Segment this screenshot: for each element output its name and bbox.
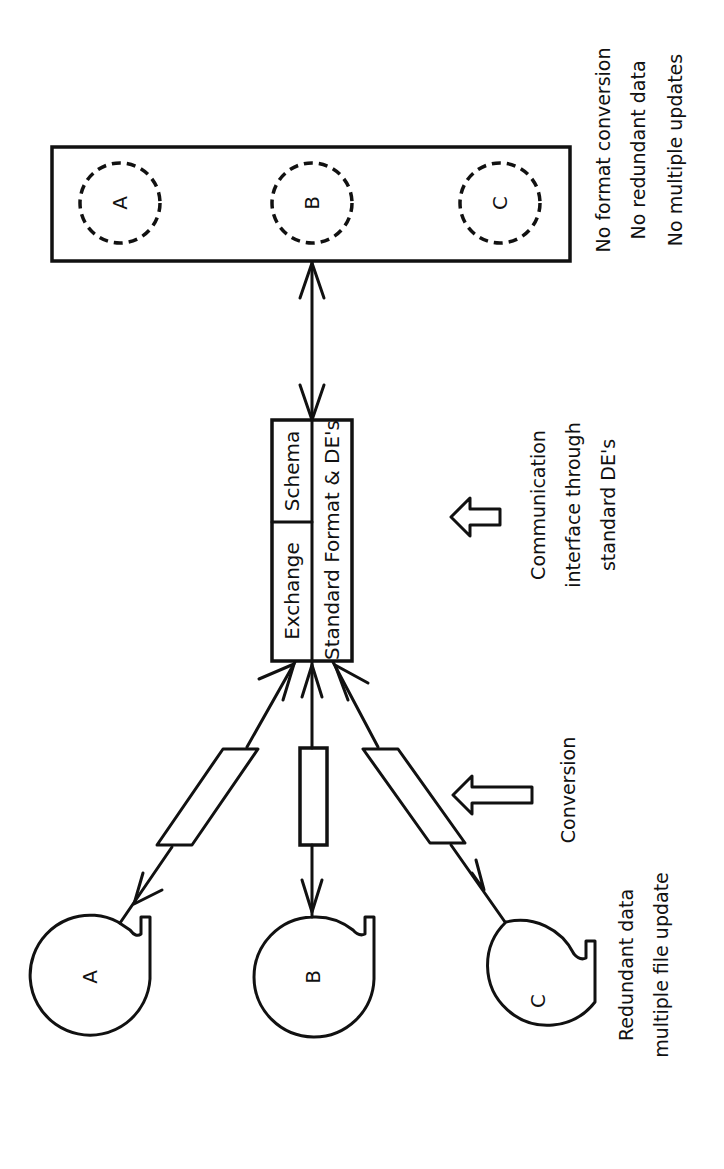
conversion-label: Conversion xyxy=(557,737,579,844)
exchange-schema-diagram: A B C No format conversion No redundant … xyxy=(0,0,724,1169)
tape-a: A xyxy=(30,915,150,1035)
bidirectional-arrow xyxy=(300,262,324,420)
tape-c-label: C xyxy=(526,994,550,1008)
conversion-link-c xyxy=(333,662,505,922)
schema-label: Schema xyxy=(280,431,304,511)
dashed-file-a-label: A xyxy=(108,196,132,210)
exchange-schema-box: Schema Exchange Standard Format & DE's xyxy=(272,420,352,661)
communication-caption-line2: interface through xyxy=(562,422,584,587)
conversion-link-a xyxy=(120,662,295,923)
standard-format-label: Standard Format & DE's xyxy=(320,420,344,660)
note-no-format-conversion: No format conversion xyxy=(592,47,614,252)
dashed-file-c-label: C xyxy=(488,196,512,210)
tape-a-label: A xyxy=(78,970,102,984)
dashed-file-b: B xyxy=(272,163,352,243)
communication-caption-line1: Communication xyxy=(527,430,549,580)
tape-c: C xyxy=(488,920,595,1025)
multiple-file-update-caption: multiple file update xyxy=(650,872,672,1058)
converter-a xyxy=(157,749,258,845)
tape-b-label: B xyxy=(301,970,325,984)
conversion-link-b xyxy=(300,662,327,917)
communication-caption: Communication interface through standard… xyxy=(451,422,619,587)
dashed-file-c: C xyxy=(460,163,540,243)
dashed-file-a: A xyxy=(80,163,160,243)
converter-b xyxy=(300,748,327,845)
hollow-arrow-up-icon xyxy=(451,498,500,536)
note-no-multiple-updates: No multiple updates xyxy=(664,54,686,246)
conversion-caption: Conversion xyxy=(453,737,579,844)
communication-caption-line3: standard DE's xyxy=(597,439,619,571)
redundant-data-caption: Redundant data xyxy=(615,889,637,1041)
left-system-caption: Redundant data multiple file update xyxy=(615,872,672,1058)
integrated-database-box: A B C xyxy=(52,147,570,261)
hollow-arrow-up-icon xyxy=(453,776,532,814)
converter-c xyxy=(363,749,465,843)
exchange-label: Exchange xyxy=(280,542,304,640)
right-system-notes: No format conversion No redundant data N… xyxy=(592,47,686,252)
dashed-file-b-label: B xyxy=(300,196,324,210)
note-no-redundant-data: No redundant data xyxy=(627,60,649,239)
tape-b: B xyxy=(254,917,374,1037)
